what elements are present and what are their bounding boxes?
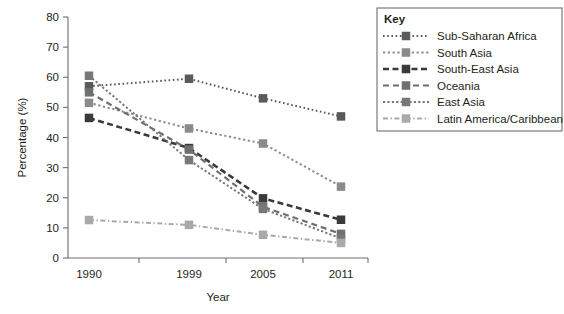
data-point-marker: [259, 194, 268, 203]
legend-marker-sample: [402, 32, 411, 41]
y-tick-label: 20: [46, 192, 59, 204]
legend-item-label: Sub-Saharan Africa: [437, 30, 537, 42]
data-point-marker: [85, 88, 94, 97]
x-axis-title: Year: [206, 291, 229, 303]
data-point-marker: [185, 156, 194, 165]
data-point-marker: [185, 75, 194, 84]
y-tick-label: 50: [46, 101, 59, 113]
x-tick-label: 2011: [329, 268, 354, 280]
series-line: [89, 79, 341, 117]
data-point-marker: [185, 221, 194, 230]
data-point-marker: [85, 71, 94, 80]
y-tick-label: 70: [46, 41, 59, 53]
series-layer: [85, 71, 346, 247]
data-point-marker: [259, 205, 268, 214]
y-tick-label: 40: [46, 132, 59, 144]
legend-item[interactable]: Sub-Saharan Africa: [383, 30, 537, 42]
data-point-marker: [85, 216, 94, 225]
data-point-marker: [337, 182, 346, 191]
y-tick-label: 10: [46, 222, 59, 234]
data-point-marker: [85, 99, 94, 108]
series-latin-america-caribbean: [85, 216, 346, 247]
legend-item-label: South-East Asia: [437, 63, 519, 75]
legend-marker-sample: [402, 81, 411, 90]
data-point-marker: [259, 94, 268, 103]
data-point-marker: [85, 114, 94, 123]
legend-marker-sample: [402, 114, 411, 123]
data-point-marker: [185, 145, 194, 154]
legend-item-label: Latin America/Caribbean: [437, 113, 563, 125]
series-line: [89, 76, 341, 239]
axes-layer: [63, 17, 368, 263]
line-chart: 010203040506070801990199920052011YearPer…: [0, 0, 564, 314]
legend-marker-sample: [402, 65, 411, 74]
x-tick-label: 2005: [250, 268, 276, 280]
series-east-asia: [85, 71, 346, 242]
x-tick-label: 1990: [76, 268, 102, 280]
data-point-marker: [259, 139, 268, 148]
series-line: [89, 92, 341, 234]
legend-item[interactable]: Latin America/Caribbean: [383, 113, 563, 125]
data-point-marker: [337, 112, 346, 121]
legend-title: Key: [384, 13, 406, 25]
data-point-marker: [337, 215, 346, 224]
legend-item[interactable]: South-East Asia: [383, 63, 519, 75]
chart-container: 010203040506070801990199920052011YearPer…: [0, 0, 564, 314]
y-tick-label: 60: [46, 71, 59, 83]
y-tick-label: 0: [53, 252, 59, 264]
series-south-east-asia: [85, 114, 346, 224]
data-point-marker: [185, 124, 194, 132]
y-axis-title: Percentage (%): [16, 97, 28, 177]
data-point-marker: [337, 239, 346, 248]
legend-item-label: Oceania: [437, 80, 480, 92]
y-tick-label: 80: [46, 11, 59, 23]
legend-item-label: South Asia: [437, 47, 493, 59]
series-line: [89, 103, 341, 187]
series-line: [89, 220, 341, 243]
legend-marker-sample: [402, 98, 411, 107]
series-oceania: [85, 88, 346, 238]
series-sub-saharan-africa: [85, 75, 346, 121]
legend-item-label: East Asia: [437, 96, 486, 108]
chart-legend: KeySub-Saharan AfricaSouth AsiaSouth-Eas…: [377, 8, 563, 131]
data-point-marker: [259, 231, 268, 240]
x-tick-label: 1999: [176, 268, 202, 280]
legend-marker-sample: [402, 48, 411, 57]
y-tick-label: 30: [46, 162, 59, 174]
